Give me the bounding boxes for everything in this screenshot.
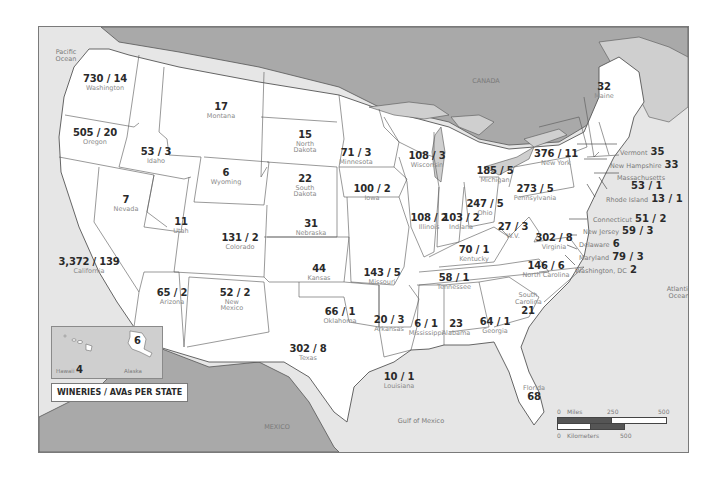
state-label-wisconsin[interactable]: 108 / 3Wisconsin [408,151,445,168]
state-label-arkansas[interactable]: 20 / 3Arkansas [374,315,404,332]
state-label-wyoming[interactable]: 6Wyoming [211,168,242,185]
state-label-kentucky[interactable]: 70 / 1Kentucky [459,245,489,262]
state-label-nevada[interactable]: 7Nevada [114,195,139,212]
scale-km-label: Kilometers [567,432,599,439]
state-label-montana[interactable]: 17Montana [207,102,235,119]
state-label-pennsylvania[interactable]: 273 / 5Pennsylvania [514,184,557,201]
state-label-colorado[interactable]: 131 / 2Colorado [221,233,258,250]
state-label-maine[interactable]: 32Maine [594,82,614,99]
state-label-utah[interactable]: 11Utah [173,217,188,234]
state-label-kansas[interactable]: 44Kansas [307,264,330,281]
state-label-arizona[interactable]: 65 / 2Arizona [157,288,187,305]
state-label-michigan[interactable]: 185 / 5Michigan [476,166,513,183]
state-label-louisiana[interactable]: 10 / 1Louisiana [384,372,415,389]
state-label-north-dakota[interactable]: 15North Dakota [293,130,317,154]
state-label-washington[interactable]: 730 / 14Washington [83,74,127,91]
hawaii-name: Hawaii [56,368,74,374]
alaska-name: Alaska [124,368,142,374]
state-label-new-york[interactable]: 376 / 11New York [534,149,578,166]
state-label-south-carolina[interactable]: South Carolina21 [515,292,541,316]
state-label-oregon[interactable]: 505 / 20Oregon [73,128,117,145]
state-label-georgia[interactable]: 64 / 1Georgia [480,317,510,334]
alaska-hawaii-inset: 6 Hawaii 4 Alaska [51,326,163,379]
state-label-oklahoma[interactable]: 66 / 1Oklahoma [323,307,356,324]
canada-label: CANADA [472,78,500,85]
pacific-ocean-label: Pacific Ocean [50,49,82,64]
state-label-nebraska[interactable]: 31Nebraska [296,219,327,236]
state-label-alabama[interactable]: 23Alabama [442,319,471,336]
state-label-north-carolina[interactable]: 146 / 6North Carolina [523,261,570,278]
alaska-value: 6 [134,335,141,346]
state-label-idaho[interactable]: 53 / 3Idaho [141,147,171,164]
state-label-texas[interactable]: 302 / 8Texas [289,344,326,361]
gulf-of-mexico-label: Gulf of Mexico [398,418,444,425]
state-label-iowa[interactable]: 100 / 2Iowa [353,184,390,201]
callout-washington-dc[interactable]: Washington, DC2 [575,258,637,277]
scale-bar: 0 Miles 250 500 0 Kilometers 500 [557,408,667,448]
state-label-virginia[interactable]: 302 / 8Virginia [535,233,572,250]
scale-miles-label: Miles [567,408,582,415]
atlantic-ocean-label: Atlantic Ocean [667,286,689,301]
state-label-california[interactable]: 3,372 / 139California [59,257,120,274]
state-label-missouri[interactable]: 143 / 5Missouri [363,268,400,285]
state-label-new-mexico[interactable]: 52 / 2New Mexico [220,288,250,312]
state-label-south-dakota[interactable]: 22South Dakota [293,174,317,198]
state-label-west-virginia[interactable]: 27 / 3W.V. [498,222,528,239]
map-frame: Pacific Ocean CANADA Atlantic Ocean Gulf… [38,26,689,453]
state-label-mississippi[interactable]: 6 / 1Mississippi [409,319,444,336]
state-label-minnesota[interactable]: 71 / 3Minnesota [339,148,373,165]
map-title-legend: WINERIES / AVAs PER STATE [51,383,188,402]
mexico-label: MEXICO [264,424,290,431]
hawaii-value: 4 [76,364,83,375]
state-label-ohio[interactable]: 247 / 5Ohio [466,199,503,216]
state-label-tennessee[interactable]: 58 / 1Tennessee [437,273,471,290]
callout-rhode-island[interactable]: Rhode Island13 / 1 [606,187,683,206]
state-label-florida[interactable]: Florida68 [523,385,545,402]
